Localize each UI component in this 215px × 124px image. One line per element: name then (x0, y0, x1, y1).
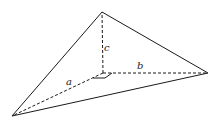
label-c: c (104, 42, 110, 53)
edge-a-dashed (12, 73, 103, 116)
edge-top-left (12, 12, 102, 116)
edge-top-right (102, 12, 208, 73)
label-a: a (66, 76, 72, 87)
label-b: b (137, 60, 143, 71)
tetrahedron-diagram: c a b (0, 0, 215, 124)
edge-left-right (12, 73, 208, 116)
edge-c-dashed (102, 12, 103, 73)
